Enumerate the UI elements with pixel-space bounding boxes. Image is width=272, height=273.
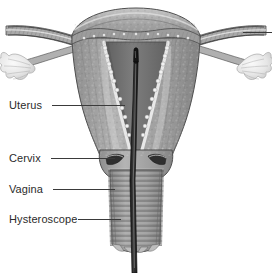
tube-isthmus-right — [194, 45, 246, 66]
hysteroscopy-illustration: Uterus Cervix Vagina Hysteroscope — [0, 0, 272, 273]
uterine-fundus — [65, 4, 210, 45]
leader-line-fallopian-tube — [243, 32, 272, 33]
label-vagina: Vagina — [9, 184, 43, 195]
fimbriae-left — [0, 52, 35, 79]
leader-line-uterus — [52, 105, 125, 106]
tube-isthmus-left — [26, 45, 78, 66]
label-uterus: Uterus — [9, 100, 42, 111]
hysteroscope-tip — [134, 48, 139, 62]
label-hysteroscope: Hysteroscope — [9, 214, 77, 225]
vaginal-canal — [104, 166, 170, 252]
anatomy-artwork — [0, 0, 272, 273]
leader-line-vagina — [53, 189, 115, 190]
fimbriae-right — [237, 52, 272, 79]
leader-line-hysteroscope — [78, 219, 121, 220]
leader-line-cervix — [51, 158, 115, 159]
label-cervix: Cervix — [9, 153, 41, 164]
